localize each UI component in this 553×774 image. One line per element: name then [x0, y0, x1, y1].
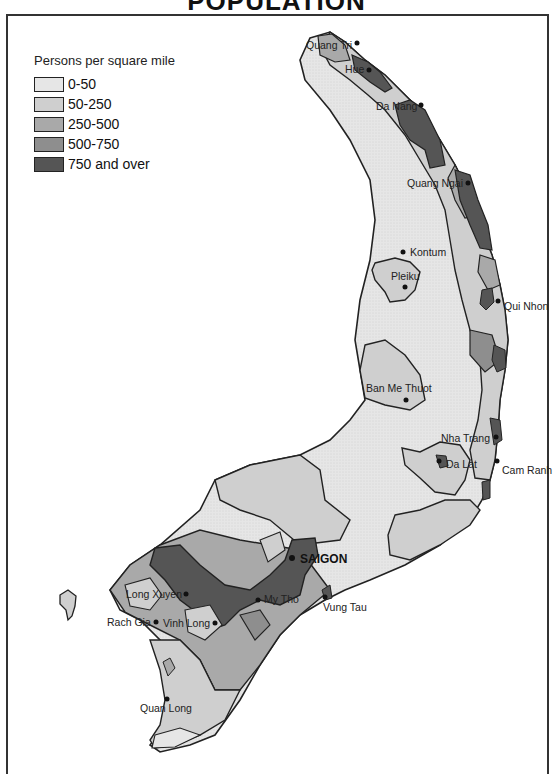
- city-label-pleiku: Pleiku: [391, 270, 420, 282]
- region-island: [60, 590, 76, 620]
- legend-swatch: [34, 117, 64, 132]
- city-label-da-nang: Da Nang: [376, 100, 418, 112]
- legend-item-500-750: 500-750: [34, 134, 175, 154]
- city-label-da-lat: Da Lat: [446, 458, 477, 470]
- city-label-quan-long: Quan Long: [140, 702, 192, 714]
- legend-swatch: [34, 137, 64, 152]
- city-label-quang-tri: Quang Tri: [306, 39, 352, 51]
- city-label-quang-ngai: Quang Ngai: [407, 177, 463, 189]
- legend-item-0-50: 0-50: [34, 74, 175, 94]
- city-label-rach-gia: Rach Gia: [107, 616, 151, 628]
- city-label-nha-trang: Nha Trang: [441, 432, 490, 444]
- legend-label: 0-50: [68, 76, 96, 92]
- city-label-saigon: SAIGON: [300, 552, 347, 566]
- legend-item-50-250: 50-250: [34, 94, 175, 114]
- legend-item-250-500: 250-500: [34, 114, 175, 134]
- city-label-kontum: Kontum: [410, 246, 446, 258]
- legend: Persons per square mile 0-50 50-250 250-…: [34, 53, 175, 174]
- city-label-hue: Hue: [345, 63, 364, 75]
- legend-label: 750 and over: [68, 156, 150, 172]
- legend-swatch: [34, 157, 64, 172]
- legend-swatch: [34, 97, 64, 112]
- legend-label: 250-500: [68, 116, 119, 132]
- legend-item-750-over: 750 and over: [34, 154, 175, 174]
- city-label-my-tho: My Tho: [264, 593, 299, 605]
- city-label-qui-nhon: Qui Nhon: [504, 300, 549, 312]
- legend-swatch: [34, 77, 64, 92]
- legend-label: 50-250: [68, 96, 112, 112]
- city-label-long-xuyen: Long Xuyen: [126, 588, 182, 600]
- city-label-cam-ranh: Cam Ranh: [502, 464, 552, 476]
- city-label-ban-me-thuot: Ban Me Thuot: [366, 382, 432, 394]
- city-label-vung-tau: Vung Tau: [323, 601, 367, 613]
- legend-label: 500-750: [68, 136, 119, 152]
- city-label-vinh-long: Vinh Long: [163, 617, 210, 629]
- legend-title: Persons per square mile: [34, 53, 175, 68]
